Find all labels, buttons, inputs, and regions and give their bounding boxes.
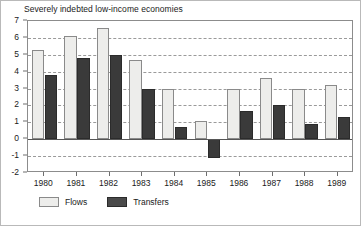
x-tick-mark (141, 172, 142, 176)
y-tick-label: 2 (14, 99, 19, 109)
y-tick-label: 4 (14, 66, 19, 76)
x-tick-mark (43, 172, 44, 176)
legend-entry-flows: Flows (39, 197, 87, 207)
y-tick-label: 3 (14, 83, 19, 93)
legend-swatch-flows-icon (39, 197, 59, 207)
y-axis: 76543210-1-2 (1, 20, 27, 172)
y-tick-label: 7 (14, 15, 19, 25)
y-tick-label: -2 (11, 167, 19, 177)
y-tick-label: 5 (14, 49, 19, 59)
x-tick-mark (109, 172, 110, 176)
legend-label-transfers: Transfers (133, 197, 169, 207)
chart-title: Severely indebted low-income economies (24, 4, 183, 14)
x-tick-label: 1985 (197, 178, 216, 188)
x-tick-label: 1982 (99, 178, 118, 188)
plot-area (27, 20, 353, 172)
x-tick-label: 1983 (132, 178, 151, 188)
x-tick-mark (206, 172, 207, 176)
x-tick-mark (337, 172, 338, 176)
x-tick-label: 1987 (262, 178, 281, 188)
y-tick-label: 0 (14, 133, 19, 143)
legend-label-flows: Flows (65, 197, 87, 207)
x-tick-label: 1984 (164, 178, 183, 188)
chart-figure: Severely indebted low-income economies 7… (0, 0, 361, 226)
x-tick-label: 1981 (66, 178, 85, 188)
x-tick-mark (239, 172, 240, 176)
x-tick-mark (76, 172, 77, 176)
x-tick-mark (272, 172, 273, 176)
x-tick-mark (174, 172, 175, 176)
y-tick-label: 6 (14, 32, 19, 42)
x-axis: 1980198119821983198419851986198719881989 (27, 172, 353, 194)
x-tick-mark (304, 172, 305, 176)
x-tick-label: 1980 (34, 178, 53, 188)
legend-entry-transfers: Transfers (107, 197, 169, 207)
y-tick-label: 1 (14, 116, 19, 126)
x-tick-label: 1989 (327, 178, 346, 188)
chart-legend: Flows Transfers (39, 197, 169, 207)
y-tick-label: -1 (11, 150, 19, 160)
legend-swatch-transfers-icon (107, 197, 127, 207)
x-tick-label: 1988 (295, 178, 314, 188)
zero-line-layer (28, 21, 352, 171)
x-tick-label: 1986 (229, 178, 248, 188)
zero-axis-line (28, 139, 352, 140)
